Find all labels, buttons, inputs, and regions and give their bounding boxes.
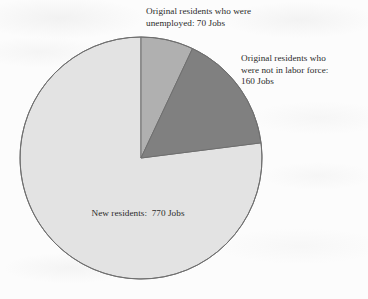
pie-label-not-in-labor-force: Original residents who were not in labor…: [241, 53, 363, 88]
pie-label-new-residents: New residents: 770 Jobs: [62, 208, 214, 220]
pie-label-unemployed: Original residents who were unemployed: …: [146, 6, 270, 29]
pie-chart-figure: Original residents who were unemployed: …: [0, 0, 368, 299]
pie-chart-graphic: [0, 0, 368, 299]
